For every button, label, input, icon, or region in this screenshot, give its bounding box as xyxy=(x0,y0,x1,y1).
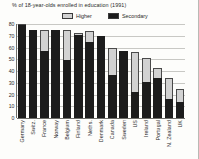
x-axis-tick-label: Denmark xyxy=(98,120,104,142)
x-axis-tick: Norway xyxy=(51,119,60,159)
bar-column[interactable] xyxy=(108,24,117,118)
y-axis-tick-0: 0 xyxy=(12,115,15,121)
x-axis-tick-label: Germany xyxy=(19,120,25,142)
bar-segment-secondary xyxy=(63,60,72,118)
x-axis-tick-label: Portugal xyxy=(155,120,161,141)
x-axis-tick-label: France xyxy=(41,120,47,137)
bar-segment-higher xyxy=(153,68,162,79)
bar-column[interactable] xyxy=(142,24,151,118)
plot-area xyxy=(17,24,185,118)
bar-segment-higher xyxy=(131,52,140,92)
x-axis-tick: Ireland xyxy=(142,119,151,159)
x-axis-tick-label: Ireland xyxy=(143,120,149,137)
x-axis-tick: Canada xyxy=(108,119,117,159)
legend-entry-higher: Higher xyxy=(62,13,92,19)
bar-column[interactable] xyxy=(40,24,49,118)
chart-figure: % of 18-year-olds enrolled in education … xyxy=(0,0,199,159)
bar-column[interactable] xyxy=(165,24,174,118)
bar-segment-secondary xyxy=(108,75,117,118)
higher-swatch-icon xyxy=(62,13,73,19)
legend-label-higher: Higher xyxy=(76,13,92,19)
bar-segment-higher xyxy=(63,30,72,61)
bar-segment-secondary xyxy=(131,92,140,118)
bar-column[interactable] xyxy=(63,24,72,118)
x-axis-tick-label: Belgium xyxy=(64,120,70,140)
bar-column[interactable] xyxy=(131,24,140,118)
bar-segment-higher xyxy=(176,89,185,102)
bar-column[interactable] xyxy=(153,24,162,118)
bar-column[interactable] xyxy=(85,24,94,118)
y-axis-tick-70: 70 xyxy=(9,33,15,39)
bar-segment-higher xyxy=(108,48,117,75)
y-axis-tick-50: 50 xyxy=(9,56,15,62)
legend-label-secondary: Secondary xyxy=(122,13,148,19)
bar-segment-secondary xyxy=(119,51,128,118)
bar-segment-secondary xyxy=(51,30,60,118)
bar-group xyxy=(17,24,185,118)
x-axis-tick: US xyxy=(131,119,140,159)
bar-column[interactable] xyxy=(119,24,128,118)
bar-column[interactable] xyxy=(97,24,106,118)
x-axis-tick-label: US xyxy=(132,120,138,128)
x-axis-tick: Portugal xyxy=(153,119,162,159)
x-axis-tick-label: Switz. xyxy=(30,120,36,135)
chart-title: % of 18-year-olds enrolled in education … xyxy=(12,2,126,8)
bar-segment-secondary xyxy=(85,42,94,118)
y-axis-tick-40: 40 xyxy=(9,68,15,74)
y-axis-tick-10: 10 xyxy=(9,103,15,109)
y-axis: 01020304050607080 xyxy=(0,24,17,118)
x-axis-tick: Finland xyxy=(74,119,83,159)
bar-column[interactable] xyxy=(29,24,38,118)
bar-segment-higher xyxy=(85,31,94,42)
bar-segment-secondary xyxy=(176,102,185,118)
x-axis-tick: France xyxy=(40,119,49,159)
x-axis-tick: Sweden xyxy=(119,119,128,159)
x-axis-tick: Germany xyxy=(18,119,27,159)
x-axis-tick: Switz. xyxy=(29,119,38,159)
chart-legend: Higher Secondary xyxy=(62,13,148,19)
bar-segment-secondary xyxy=(29,30,38,118)
bar-segment-higher xyxy=(165,78,174,99)
x-axis-tick-label: Sweden xyxy=(121,120,127,140)
y-axis-tick-30: 30 xyxy=(9,80,15,86)
bar-segment-secondary xyxy=(153,78,162,118)
x-axis-tick-label: UK xyxy=(177,120,183,128)
x-axis-tick: UK xyxy=(176,119,185,159)
x-axis-tick-label: Norway xyxy=(53,120,59,139)
bar-column[interactable] xyxy=(51,24,60,118)
x-axis-tick-label: Canada xyxy=(109,120,115,139)
bar-segment-secondary xyxy=(142,82,151,118)
secondary-swatch-icon xyxy=(108,13,119,19)
y-axis-tick-20: 20 xyxy=(9,92,15,98)
x-axis-tick-label: Neths. xyxy=(87,120,93,136)
bar-segment-secondary xyxy=(97,36,106,118)
x-axis-tick: N. Zealand xyxy=(165,119,174,159)
x-axis-tick: Neths. xyxy=(85,119,94,159)
bar-segment-secondary xyxy=(40,51,49,118)
bar-segment-secondary xyxy=(74,35,83,118)
y-axis-tick-80: 80 xyxy=(9,21,15,27)
bar-column[interactable] xyxy=(176,24,185,118)
y-axis-tick-60: 60 xyxy=(9,45,15,51)
x-axis-tick: Denmark xyxy=(97,119,106,159)
bar-column[interactable] xyxy=(18,24,27,118)
x-axis-tick-label: Finland xyxy=(75,120,81,138)
x-axis-tick: Belgium xyxy=(63,119,72,159)
legend-entry-secondary: Secondary xyxy=(108,13,148,19)
bar-segment-higher xyxy=(142,58,151,82)
bar-segment-secondary xyxy=(18,25,27,118)
x-axis-tick-label: N. Zealand xyxy=(166,120,172,147)
bar-segment-secondary xyxy=(165,99,174,118)
x-axis: GermanySwitz.FranceNorwayBelgiumFinlandN… xyxy=(17,119,185,159)
bar-column[interactable] xyxy=(74,24,83,118)
bar-segment-higher xyxy=(40,30,49,51)
